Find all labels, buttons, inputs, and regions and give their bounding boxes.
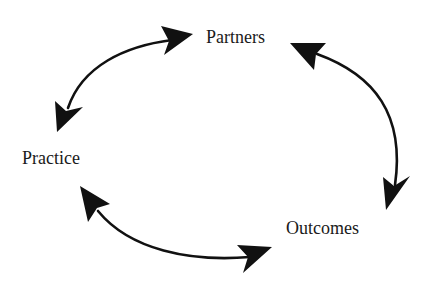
arrow-partners-outcomes [290,43,410,210]
node-practice: Practice [22,149,80,167]
arrow-partners-practice [55,26,193,132]
node-outcomes: Outcomes [286,219,359,237]
arrowhead-up-left-icon [80,186,110,222]
arrowhead-right-icon [237,245,272,273]
arrow-practice-outcomes [80,186,272,273]
node-partners: Partners [206,28,265,46]
cycle-diagram: Partners Practice Outcomes [0,0,433,289]
